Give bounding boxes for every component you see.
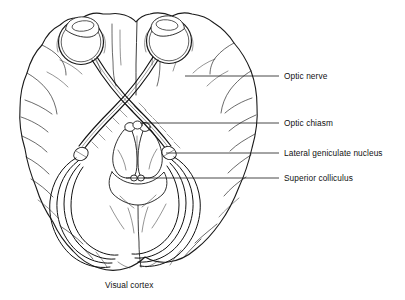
label-optic-chiasm: Optic chiasm bbox=[284, 119, 333, 127]
label-lateral-geniculate-nucleus: Lateral geniculate nucleus bbox=[284, 149, 383, 157]
tuber-cinereum bbox=[133, 121, 142, 129]
label-superior-colliculus: Superior colliculus bbox=[284, 174, 353, 182]
label-optic-nerve: Optic nerve bbox=[284, 72, 327, 80]
visual-pathway-diagram: Optic nerve Optic chiasm Lateral genicul… bbox=[0, 0, 405, 300]
caption-visual-cortex: Visual cortex bbox=[105, 281, 153, 289]
